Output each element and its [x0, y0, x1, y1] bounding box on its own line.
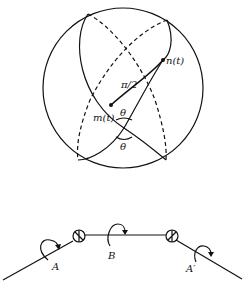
point-m	[109, 103, 113, 107]
label-a-prime: A′	[185, 263, 196, 274]
segment-a	[3, 241, 73, 280]
label-b: B	[107, 250, 115, 261]
joint-right	[166, 230, 178, 242]
angle-arc-bottom	[116, 137, 132, 140]
label-n: n(t)	[166, 55, 184, 66]
diagram-canvas: n(t) m(t) π/2 θ θ A B A′	[0, 0, 243, 293]
label-theta-top: θ	[120, 107, 126, 118]
point-n	[161, 58, 165, 62]
chain-diagram	[3, 224, 242, 280]
label-arc: π/2	[120, 79, 137, 90]
label-a: A	[51, 261, 59, 272]
joint-left	[73, 230, 85, 242]
label-theta-bottom: θ	[120, 141, 126, 152]
label-m: m(t)	[93, 112, 114, 123]
